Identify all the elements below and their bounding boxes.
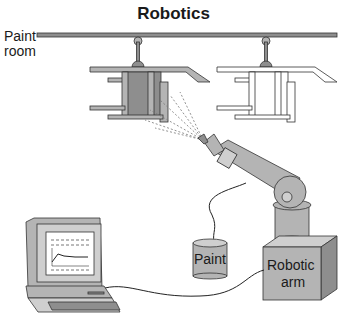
part-being-painted — [90, 67, 210, 122]
robotic-arm-label-line1: Robotic — [267, 258, 314, 273]
paint-hose — [209, 183, 246, 242]
hanger-right — [260, 37, 272, 67]
robotic-arm-label-line2: arm — [281, 275, 305, 290]
computer — [26, 218, 120, 312]
overhead-rail — [37, 33, 337, 37]
paint-can-label: Paint — [194, 252, 226, 267]
control-cable — [105, 270, 264, 296]
hanger-left — [132, 37, 144, 67]
unpainted-part — [217, 67, 337, 122]
